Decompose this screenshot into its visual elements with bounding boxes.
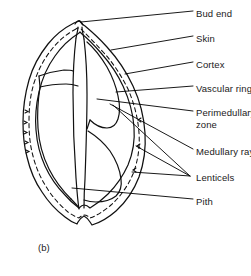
label-vascular-ring-text: Vascular ring: [196, 83, 251, 94]
figure-caption-text: (b): [38, 242, 50, 253]
label-medullary-rays-text: Medullary rays: [196, 146, 251, 157]
leader-line-cortex: [125, 62, 193, 74]
label-perimedullary-zone-line2: zone: [196, 119, 217, 130]
label-pith-text: Pith: [196, 196, 213, 207]
label-lenticels-text: Lenticels: [196, 172, 234, 183]
label-perimedullary-zone: Perimedullary zone: [196, 107, 251, 130]
figure-potato-tuber-diagram: Bud end Skin Cortex Vascular ring Perime…: [0, 0, 251, 276]
leader-line-skin: [111, 36, 193, 50]
label-bud-end: Bud end: [196, 8, 232, 20]
leader-line-bud-end: [81, 11, 193, 22]
label-cortex: Cortex: [196, 59, 225, 71]
figure-caption: (b): [38, 242, 50, 253]
label-lenticels: Lenticels: [196, 172, 234, 184]
label-cortex-text: Cortex: [196, 59, 225, 70]
label-skin: Skin: [196, 33, 215, 45]
label-perimedullary-zone-line1: Perimedullary: [196, 107, 251, 118]
label-medullary-rays: Medullary rays: [196, 146, 251, 158]
label-skin-text: Skin: [196, 33, 215, 44]
leader-line-lenticel-lower: [132, 172, 190, 176]
label-vascular-ring: Vascular ring: [196, 83, 251, 95]
label-bud-end-text: Bud end: [196, 8, 232, 19]
label-pith: Pith: [196, 196, 213, 208]
